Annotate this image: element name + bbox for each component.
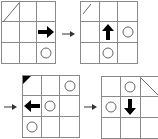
cell	[20, 43, 38, 63]
cell	[23, 76, 42, 96]
cell	[100, 2, 119, 22]
cell	[42, 117, 61, 137]
cell	[118, 22, 137, 42]
cell	[118, 43, 137, 63]
cell	[20, 22, 38, 42]
arrow-down-icon	[124, 99, 136, 115]
panel-3-grid	[22, 75, 80, 138]
cell	[102, 118, 121, 138]
arrow-left-icon	[24, 100, 40, 112]
flow-arrow-icon	[62, 30, 76, 38]
cell	[60, 117, 79, 137]
cell	[60, 96, 79, 116]
panel-1-grid	[1, 1, 56, 64]
cell	[23, 117, 42, 137]
cell	[81, 2, 100, 22]
cell	[102, 77, 121, 97]
cell	[23, 96, 42, 116]
cell	[121, 77, 140, 97]
panel-4-grid	[101, 76, 158, 139]
corner-diagonal-icon	[141, 77, 158, 98]
cell	[2, 43, 20, 63]
cell	[2, 2, 20, 22]
cell	[37, 22, 55, 42]
cell	[42, 96, 61, 116]
circle-icon	[103, 47, 114, 58]
cell	[81, 43, 100, 63]
circle-icon	[26, 121, 37, 132]
cell	[121, 118, 140, 138]
cell	[37, 2, 55, 22]
cell	[2, 22, 20, 42]
corner-triangle-icon	[23, 76, 31, 84]
cell	[20, 2, 38, 22]
flow-arrow-icon	[84, 103, 98, 111]
circle-icon	[125, 81, 136, 92]
cell	[42, 76, 61, 96]
cell	[100, 43, 119, 63]
circle-icon	[45, 100, 56, 111]
arrow-right-icon	[38, 26, 54, 38]
cell	[102, 97, 121, 117]
cell	[121, 97, 140, 117]
corner-diagonal-icon	[2, 2, 20, 23]
cell	[37, 43, 55, 63]
circle-icon	[122, 26, 133, 37]
cell	[60, 76, 79, 96]
cell	[141, 118, 158, 138]
cell	[141, 77, 158, 97]
circle-icon	[106, 101, 117, 112]
cell	[118, 2, 137, 22]
panel-2-grid	[80, 1, 138, 64]
cell	[100, 22, 119, 42]
circle-icon	[64, 80, 75, 91]
circle-icon	[41, 47, 52, 58]
arrow-up-icon	[102, 24, 114, 40]
cell	[81, 22, 100, 42]
corner-diagonal-icon	[81, 2, 100, 23]
cell	[141, 97, 158, 117]
flow-arrow-icon	[4, 103, 18, 111]
